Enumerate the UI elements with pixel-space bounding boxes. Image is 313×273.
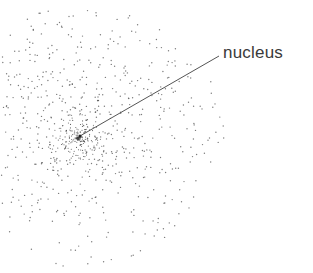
electron-cloud-diagram — [0, 0, 313, 273]
nucleus-point — [78, 134, 81, 137]
nucleus-leader-line — [80, 56, 219, 136]
electron-cloud — [1, 10, 225, 267]
nucleus-label: nucleus — [223, 43, 283, 63]
